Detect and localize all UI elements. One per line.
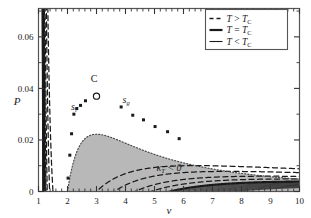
x-tick-label: 1 xyxy=(36,196,41,206)
x-tick-label: 7 xyxy=(210,196,215,206)
y-tick-label: 0.02 xyxy=(18,135,34,145)
x-tick-label: 5 xyxy=(152,196,157,206)
critical-point-label: C xyxy=(91,73,98,84)
x-tick-label: 2 xyxy=(65,196,70,206)
x-tick-label: 3 xyxy=(94,196,99,206)
x-tick-label: 6 xyxy=(181,196,186,206)
x-axis-label: v xyxy=(167,204,172,216)
x-tick-label: 4 xyxy=(123,196,128,206)
y-tick-label: 0 xyxy=(29,187,34,197)
y-tick-label: 0.06 xyxy=(18,32,34,42)
y-tick-label: 0.04 xyxy=(18,84,34,94)
x-tick-label: 10 xyxy=(295,196,305,206)
critical-point-marker xyxy=(93,93,99,99)
y-axis-label: P xyxy=(13,95,21,107)
x-tick-label: 9 xyxy=(268,196,273,206)
pv-diagram-figure: CslsgκT < 0 12345678910 00.020.040.06 v … xyxy=(0,0,311,218)
legend[interactable]: T > TCT = TCT < TC xyxy=(206,10,288,50)
x-tick-label: 8 xyxy=(239,196,244,206)
negative-compressibility-label: κT < 0 xyxy=(156,162,181,174)
